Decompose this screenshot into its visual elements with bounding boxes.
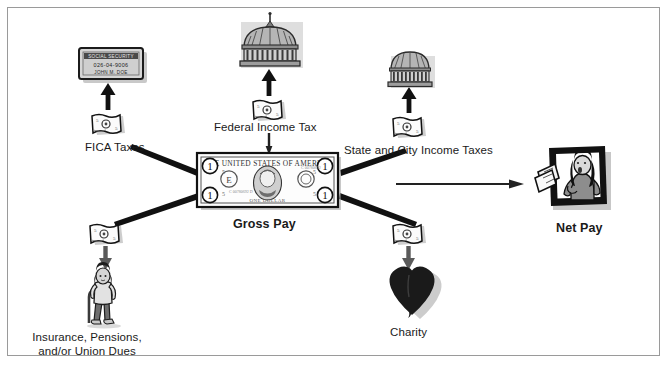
crumpled-bill-icon: 5 5	[89, 110, 129, 138]
node-state-money: 5 5	[390, 113, 430, 141]
svg-text:1: 1	[207, 189, 213, 201]
label-federal-income-tax: Federal Income Tax	[214, 121, 317, 135]
node-person-with-cane	[72, 265, 134, 329]
capitol-dome-icon	[233, 12, 307, 70]
diagram-canvas: THE UNITED STATES OF AMERICA E 1 1 1 1 5…	[0, 0, 669, 365]
label-insurance-pensions: Insurance, Pensions, and/or Union Dues	[22, 331, 152, 358]
label-insurance-line2: and/or Union Dues	[38, 345, 136, 357]
svg-text:E: E	[226, 175, 232, 185]
svg-text:1: 1	[322, 160, 328, 172]
node-heart	[376, 262, 444, 320]
node-federal-money: 5 5	[250, 96, 290, 124]
label-state-city-income-taxes: State and City Income Taxes	[344, 144, 493, 158]
svg-text:SOCIAL SECURITY: SOCIAL SECURITY	[88, 54, 134, 59]
svg-text:1: 1	[207, 160, 213, 172]
label-net-pay: Net Pay	[556, 222, 603, 236]
svg-text:C 00780692: C 00780692	[301, 165, 321, 170]
svg-text:ONE DOLLAR: ONE DOLLAR	[250, 198, 286, 203]
label-insurance-line1: Insurance, Pensions,	[32, 331, 141, 343]
person-holding-cash-icon	[525, 142, 617, 220]
crumpled-bill-icon: 5 5	[390, 113, 430, 141]
label-fica-taxes: FICA Taxes	[85, 141, 145, 155]
node-gross-pay: THE UNITED STATES OF AMERICA E 1 1 1 1 5…	[196, 152, 344, 214]
dollar-bill-icon: THE UNITED STATES OF AMERICA E 1 1 1 1 5…	[196, 152, 344, 214]
node-charity-money: 5 5	[390, 220, 430, 248]
crumpled-bill-icon: 5 5	[87, 220, 127, 248]
svg-text:JOHN M. DOE: JOHN M. DOE	[94, 70, 127, 75]
state-capitol-dome-icon	[385, 48, 437, 90]
node-insurance-money: 5 5	[87, 220, 127, 248]
svg-text:5: 5	[222, 191, 225, 197]
node-social-security-card: SOCIAL SECURITY 026-04-9006 JOHN M. DOE	[78, 46, 150, 86]
crumpled-bill-icon: 5 5	[390, 220, 430, 248]
svg-text:026-04-9006: 026-04-9006	[94, 62, 129, 68]
svg-text:5: 5	[313, 191, 316, 197]
person-with-cane-icon	[72, 265, 134, 329]
node-net-pay	[525, 142, 617, 220]
label-charity: Charity	[390, 326, 427, 340]
svg-text:1: 1	[322, 189, 328, 201]
node-fica-money: 5 5	[89, 110, 129, 138]
svg-text:C 00780692 D: C 00780692 D	[229, 189, 253, 194]
heart-icon	[376, 262, 444, 320]
crumpled-bill-icon: 5 5	[250, 96, 290, 124]
node-capitol-dome	[233, 12, 307, 70]
label-gross-pay: Gross Pay	[233, 218, 296, 232]
svg-text:5: 5	[222, 169, 225, 175]
node-state-dome	[385, 48, 437, 90]
social-security-card-icon: SOCIAL SECURITY 026-04-9006 JOHN M. DOE	[78, 46, 150, 86]
